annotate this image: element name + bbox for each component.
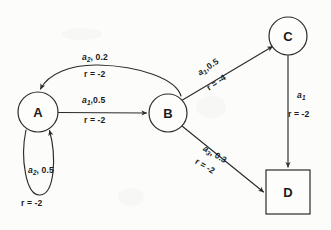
node-a-label: A — [33, 105, 43, 120]
edge-c-to-d-action-label: a1 — [297, 91, 306, 101]
edge-b-to-a-reward-label: r = -2 — [84, 70, 105, 80]
edge-c-to-d-reward-label: r = -2 — [288, 110, 309, 120]
edge-a-to-b — [59, 113, 147, 114]
node-c-label: C — [283, 29, 293, 44]
diagram-canvas: A B C D a2, 0.2 r = -2 a1,0.5 r = -2 a2,… — [0, 0, 331, 230]
edge-a-self-loop-action-label: a2, 0.5 — [28, 166, 54, 176]
edge-a-to-b-reward-label: r = -2 — [84, 116, 105, 126]
edge-b-to-a-action-label: a2, 0.2 — [82, 53, 108, 63]
edge-b-to-a — [41, 65, 182, 96]
node-b-label: B — [163, 106, 172, 121]
edge-a-self-loop — [24, 130, 54, 195]
edge-a-to-b-action-label: a1,0.5 — [82, 96, 105, 106]
edge-b-to-c — [183, 47, 273, 101]
edge-a-self-loop-reward-label: r = -2 — [21, 199, 42, 209]
diagram-graph: A B C D — [0, 0, 331, 230]
node-d-label: D — [283, 185, 292, 200]
